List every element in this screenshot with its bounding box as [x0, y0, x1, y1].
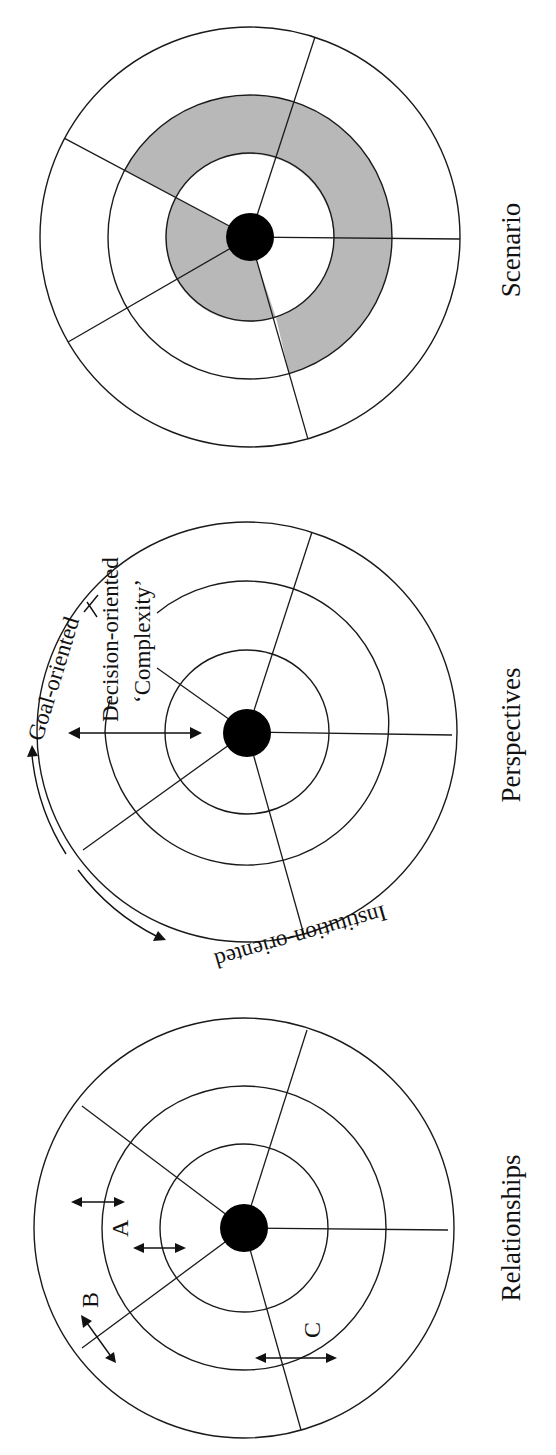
- scenario-diagram: Scenario: [40, 27, 526, 447]
- perspectives-hub: [223, 709, 271, 757]
- institution-oriented-arc-arrow: [78, 870, 158, 937]
- goal-arrowhead-icon: [27, 745, 38, 757]
- goal-decision-tick: [87, 602, 97, 617]
- relationships-spoke: [244, 1030, 307, 1228]
- goal-oriented-label: Goal-oriented: [23, 614, 84, 744]
- decision-oriented-label: Decision-oriented: [98, 557, 123, 722]
- relationships-spoke: [244, 1228, 448, 1230]
- perspectives-spoke: [247, 732, 304, 935]
- institution-oriented-label: Institution-oriented: [211, 900, 389, 973]
- relationships-spoke: [244, 1228, 301, 1430]
- perspectives-spoke: [247, 732, 452, 735]
- relationships-hub: [220, 1204, 268, 1252]
- relationships-spoke: [82, 1228, 244, 1348]
- complexity-double-arrow: [68, 727, 202, 739]
- goal-oriented-arc-arrow: [32, 755, 66, 854]
- relationship-a-label: A: [107, 1219, 133, 1237]
- relationship-c-label: C: [299, 1322, 325, 1338]
- figure-canvas: Scenario Goal-oriented Decision-oriented…: [0, 0, 556, 1455]
- relationships-diagram: A B C Relationships: [34, 1018, 526, 1438]
- scenario-caption: Scenario: [496, 203, 526, 297]
- relationships-spoke: [82, 1106, 244, 1228]
- perspectives-caption: Perspectives: [496, 668, 526, 803]
- relationship-b-arrow: [81, 1315, 116, 1363]
- relationship-c-arrow: [255, 1353, 337, 1363]
- scenario-hub: [226, 213, 274, 261]
- perspectives-diagram: Goal-oriented Decision-oriented ‘Complex…: [23, 522, 526, 973]
- perspectives-spoke: [247, 532, 312, 732]
- relationships-caption: Relationships: [496, 1155, 526, 1302]
- complexity-label: ‘Complexity’: [130, 579, 155, 703]
- relationship-b-label: B: [77, 1292, 103, 1308]
